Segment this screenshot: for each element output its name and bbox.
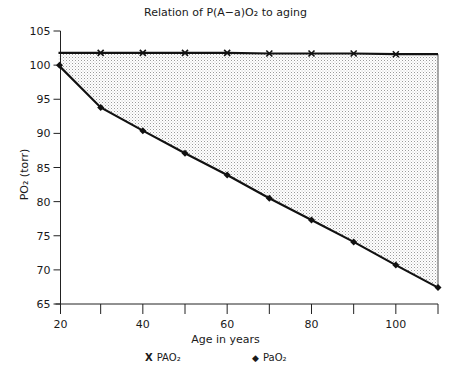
y-tick-label: 105 [30, 25, 51, 38]
legend-label: PaO₂ [263, 352, 287, 363]
legend-item-pAO2: X PAO₂ [145, 352, 181, 363]
y-tick-label: 100 [30, 59, 51, 72]
x-tick-label: 20 [54, 318, 68, 331]
x-tick-label: 60 [220, 318, 234, 331]
y-tick-label: 95 [37, 93, 51, 106]
x-tick-label: 40 [136, 318, 150, 331]
y-tick-label: 65 [37, 298, 51, 311]
x-tick-label: 80 [305, 318, 319, 331]
y-tick-label: 85 [37, 162, 51, 175]
y-tick-label: 90 [37, 127, 51, 140]
gradient-shaded-area [59, 53, 439, 288]
x-tick-label: 100 [385, 318, 406, 331]
y-axis-label: PO₂ (torr) [18, 145, 31, 205]
x-axis-label: Age in years [0, 333, 451, 346]
x-marker-icon: X [145, 352, 153, 363]
legend-label: PAO₂ [157, 352, 181, 363]
line-chart: 6570758085909510010520406080100 [0, 0, 451, 372]
y-tick-label: 75 [37, 230, 51, 243]
diamond-marker-icon: ◆ [252, 353, 259, 363]
legend-item-paO2: ◆ PaO₂ [252, 352, 287, 363]
y-tick-label: 80 [37, 196, 51, 209]
y-tick-label: 70 [37, 264, 51, 277]
a-a-gradient-area [59, 53, 439, 288]
